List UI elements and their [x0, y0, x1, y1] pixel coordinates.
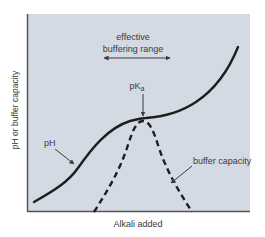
range-label-line1: effective [116, 32, 149, 42]
buffer-capacity-label: buffer capacity [193, 156, 252, 166]
y-axis-label: pH or buffer capacity [10, 70, 20, 149]
buffering-diagram: effective buffering range pKa pH buffer … [0, 0, 265, 237]
range-label-line2: buffering range [103, 44, 163, 54]
x-axis-label: Alkali added [113, 219, 162, 229]
ph-label: pH [44, 138, 56, 148]
